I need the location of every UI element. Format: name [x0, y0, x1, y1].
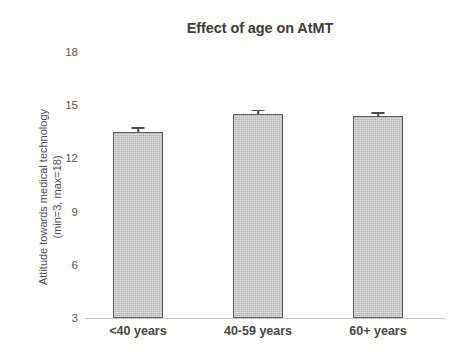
y-axis-tick-label: 15 — [54, 99, 78, 111]
bar-chart: Effect of age on AtMT Attitude towards m… — [0, 0, 453, 352]
chart-title: Effect of age on AtMT — [75, 20, 445, 36]
y-axis-tick-label: 9 — [54, 206, 78, 218]
y-axis-tick-label: 18 — [54, 46, 78, 58]
x-axis-line — [85, 318, 445, 319]
y-axis-tick-label: 6 — [54, 259, 78, 271]
y-axis-tick-label: 12 — [54, 152, 78, 164]
x-axis-tick-label: 40-59 years — [224, 324, 292, 338]
y-axis-tick-labels: 181512963 — [52, 52, 78, 318]
bar[interactable] — [233, 114, 283, 318]
plot-area — [85, 52, 445, 318]
bar[interactable] — [113, 132, 163, 318]
bar-group — [353, 52, 403, 318]
error-bar-cap — [132, 127, 145, 129]
bar-group — [233, 52, 283, 318]
error-bar-cap — [252, 110, 265, 112]
y-axis-tick-label: 3 — [54, 312, 78, 324]
bar[interactable] — [353, 116, 403, 318]
x-axis-tick-label: 60+ years — [349, 324, 406, 338]
bar-group — [113, 52, 163, 318]
x-axis-tick-label: <40 years — [109, 324, 166, 338]
error-bar-cap — [372, 112, 385, 114]
y-axis-title-line-1: Attitude towards medical technology — [36, 52, 50, 342]
